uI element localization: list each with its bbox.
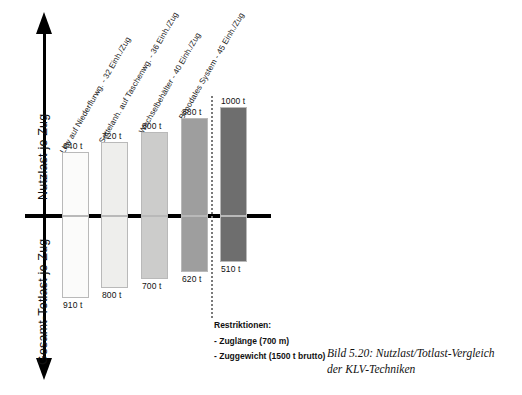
bar-negative-4 [181, 216, 208, 272]
bar-value-top-2: 720 t [102, 131, 121, 141]
bar-positive-5 [220, 107, 247, 216]
restrictions-heading: Restriktionen: [214, 318, 325, 333]
bar-value-top-5: 1000 t [221, 96, 245, 106]
bar-value-top-4: 880 t [182, 107, 201, 117]
bar-value-bottom-2: 800 t [102, 290, 121, 300]
bar-value-bottom-4: 620 t [182, 274, 201, 284]
chart-figure: Nutzlast je Zug Gesamt-Totlast je Zug Lk… [0, 0, 522, 395]
bimodal-divider [211, 96, 213, 318]
bar-value-bottom-5: 510 t [221, 264, 240, 274]
bar-positive-1 [62, 152, 89, 216]
bar-group-1: Lkw auf Niederflurwg. - 32 Einh./Zug 640… [62, 0, 89, 395]
bar-group-2: Sattelanh. auf Taschenwg. - 36 Einh./Zug… [101, 0, 128, 395]
bar-value-top-1: 640 t [63, 141, 82, 151]
restrictions-note: Restriktionen: - Zuglänge (700 m) - Zugg… [214, 318, 325, 364]
bar-negative-2 [101, 216, 128, 288]
bar-negative-3 [141, 216, 168, 279]
bar-group-3: Wechselbehälter - 40 Einh./Zug 800 t 700… [141, 0, 168, 395]
bar-negative-5 [220, 216, 247, 262]
caption-line-2: der KLV-Techniken [327, 362, 512, 378]
bar-group-4: Bimodales System - 45 Einh./Zug 880 t 62… [181, 0, 208, 395]
bar-positive-3 [141, 132, 168, 216]
bar-positive-4 [181, 118, 208, 216]
bar-negative-1 [62, 216, 89, 298]
restriction-item-2: - Zuggewicht (1500 t brutto) [214, 349, 325, 364]
figure-caption: Bild 5.20: Nutzlast/Totlast-Vergleich de… [327, 346, 512, 377]
bar-value-bottom-3: 700 t [142, 281, 161, 291]
restriction-item-1: - Zuglänge (700 m) [214, 334, 325, 349]
bar-value-top-3: 800 t [142, 121, 161, 131]
bar-positive-2 [101, 142, 128, 216]
caption-line-1: Bild 5.20: Nutzlast/Totlast-Vergleich [327, 346, 512, 362]
bar-value-bottom-1: 910 t [63, 300, 82, 310]
